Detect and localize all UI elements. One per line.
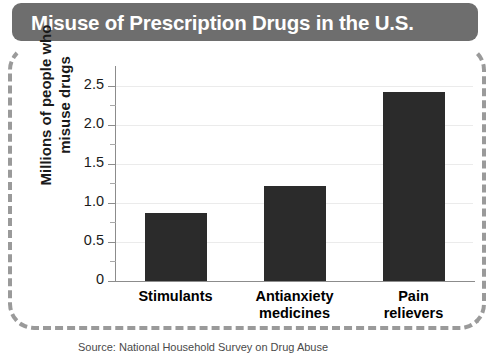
x-axis-category-label: Antianxietymedicines bbox=[235, 288, 354, 322]
y-axis-minor-tick bbox=[110, 261, 116, 262]
bar bbox=[383, 92, 445, 281]
y-axis-tick-label: 1.5 bbox=[64, 154, 104, 170]
y-axis-tick-label: 0 bbox=[64, 271, 104, 287]
bar bbox=[264, 186, 326, 281]
category-label-line: Stimulants bbox=[116, 288, 235, 305]
y-axis-tick-labels: 00.51.01.52.02.5 bbox=[60, 0, 104, 351]
y-axis-tick-label: 1.0 bbox=[64, 193, 104, 209]
y-axis-tick-label: 0.5 bbox=[64, 232, 104, 248]
y-axis-minor-tick bbox=[110, 144, 116, 145]
y-axis-tick bbox=[108, 125, 116, 126]
y-axis-tick bbox=[108, 86, 116, 87]
category-label-line: medicines bbox=[235, 305, 354, 322]
y-axis-tick bbox=[108, 164, 116, 165]
y-axis-minor-tick bbox=[110, 222, 116, 223]
x-axis-line bbox=[115, 281, 475, 282]
y-axis-tick bbox=[108, 281, 116, 282]
category-label-line: Antianxiety bbox=[235, 288, 354, 305]
x-axis-category-label: Painrelievers bbox=[354, 288, 473, 322]
x-axis-category-label: Stimulants bbox=[116, 288, 235, 305]
frame-gap-mask bbox=[8, 44, 30, 49]
y-axis-minor-tick bbox=[110, 105, 116, 106]
bar bbox=[145, 213, 207, 281]
gridline bbox=[116, 86, 473, 87]
y-axis-tick bbox=[108, 242, 116, 243]
y-axis-tick-label: 2.5 bbox=[64, 76, 104, 92]
category-label-line: relievers bbox=[354, 305, 473, 322]
y-axis-minor-tick bbox=[110, 183, 116, 184]
y-axis-title-line-1: Millions of people who bbox=[36, 5, 55, 205]
y-axis-tick-label: 2.0 bbox=[64, 115, 104, 131]
y-axis-tick bbox=[108, 203, 116, 204]
category-label-line: Pain bbox=[354, 288, 473, 305]
source-note: Source: National Household Survey on Dru… bbox=[78, 341, 328, 353]
